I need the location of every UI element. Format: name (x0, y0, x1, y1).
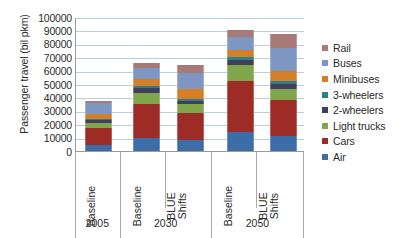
category-cell-blue-shifts: BLUEShifts (257, 152, 304, 208)
bar-segment-air[interactable] (85, 145, 112, 151)
legend-swatch-icon (322, 92, 328, 98)
plot-area (75, 18, 304, 152)
category-cell-blue-shifts: BLUEShifts (166, 152, 212, 208)
bar-segment-minibuses[interactable] (227, 50, 254, 57)
bar-segment-minibuses[interactable] (270, 71, 297, 82)
legend-item-cars[interactable]: Cars (322, 134, 411, 150)
bar-segment-light-trucks[interactable] (270, 89, 297, 100)
legend-item-minibuses[interactable]: Minibuses (322, 71, 411, 87)
legend-swatch-icon (322, 45, 328, 51)
legend-item-2-wheelers[interactable]: 2-wheelers (322, 102, 411, 118)
category-cell-baseline: Baseline (121, 152, 167, 208)
y-tick-label: 0 (18, 147, 72, 158)
y-tick-label: 60000 (18, 66, 72, 77)
bar-segment-buses[interactable] (85, 103, 112, 114)
legend-item-3-wheelers[interactable]: 3-wheelers (322, 87, 411, 103)
legend-item-light-trucks[interactable]: Light trucks (322, 118, 411, 134)
group-cell-2050: 2050 (212, 208, 304, 238)
bar-segment-buses[interactable] (270, 48, 297, 71)
legend-swatch-icon (322, 154, 328, 160)
y-tick-label: 20000 (18, 120, 72, 131)
bar-segment-cars[interactable] (133, 104, 160, 138)
y-tick-label: 30000 (18, 106, 72, 117)
group-cell-2005: 2005 (75, 208, 121, 238)
legend-label: Buses (333, 57, 362, 69)
bar-segment-minibuses[interactable] (133, 79, 160, 86)
legend-label: Light trucks (333, 120, 386, 132)
legend-item-rail[interactable]: Rail (322, 40, 411, 56)
legend-swatch-icon (322, 138, 328, 144)
bar-segment-light-trucks[interactable] (133, 93, 160, 104)
bar-2050-blue-shifts[interactable] (270, 34, 297, 151)
bar-segment-rail[interactable] (177, 65, 204, 72)
legend-label: 3-wheelers (333, 89, 383, 101)
gridline (76, 18, 304, 19)
legend-swatch-icon (322, 60, 328, 66)
group-label: 2005 (86, 217, 109, 229)
category-cell-baseline: Baseline (75, 152, 121, 208)
bar-segment-buses[interactable] (133, 68, 160, 79)
legend-label: Rail (333, 42, 351, 54)
y-axis-tick-labels: 1000009000080000700006000050000400003000… (18, 14, 72, 152)
bar-segment-buses[interactable] (177, 73, 204, 89)
legend-item-buses[interactable]: Buses (322, 56, 411, 72)
bar-segment-cars[interactable] (227, 81, 254, 131)
legend-item-air[interactable]: Air (322, 149, 411, 165)
bar-segment-air[interactable] (270, 136, 297, 151)
category-cell-baseline: Baseline (212, 152, 258, 208)
legend-swatch-icon (322, 123, 328, 129)
group-label: 2050 (246, 217, 269, 229)
group-cell-2030: 2030 (121, 208, 212, 238)
legend-swatch-icon (322, 76, 328, 82)
bar-segment-minibuses[interactable] (177, 89, 204, 99)
gridline (76, 31, 304, 32)
category-axis: BaselineBaselineBLUEShiftsBaselineBLUESh… (75, 152, 304, 238)
bar-segment-light-trucks[interactable] (177, 104, 204, 113)
bar-segment-buses[interactable] (227, 37, 254, 50)
stacked-bar-chart: Passenger travel (bil pkm) 1000009000080… (0, 0, 411, 238)
y-tick-label: 10000 (18, 133, 72, 144)
bar-segment-cars[interactable] (85, 128, 112, 145)
y-tick-label: 90000 (18, 26, 72, 37)
group-label: 2030 (154, 217, 177, 229)
y-tick-label: 50000 (18, 80, 72, 91)
bar-segment-light-trucks[interactable] (227, 65, 254, 81)
y-tick-label: 100000 (18, 13, 72, 24)
bar-segment-air[interactable] (133, 138, 160, 151)
legend-label: Cars (333, 135, 355, 147)
bar-2005-baseline[interactable] (85, 101, 112, 151)
legend-label: Minibuses (333, 73, 379, 85)
bar-segment-air[interactable] (177, 140, 204, 151)
legend-swatch-icon (322, 107, 328, 113)
bar-segment-rail[interactable] (270, 34, 297, 47)
bar-segment-rail[interactable] (227, 30, 254, 37)
legend-label: Air (333, 151, 346, 163)
legend: RailBusesMinibuses3-wheelers2-wheelersLi… (322, 40, 411, 165)
bar-2030-blue-shifts[interactable] (177, 65, 204, 151)
bar-segment-cars[interactable] (270, 100, 297, 136)
legend-label: 2-wheelers (333, 104, 383, 116)
bar-segment-air[interactable] (227, 132, 254, 151)
bar-segment-cars[interactable] (177, 113, 204, 140)
bar-2030-baseline[interactable] (133, 63, 160, 151)
bar-2050-baseline[interactable] (227, 30, 254, 151)
y-tick-label: 80000 (18, 39, 72, 50)
y-tick-label: 70000 (18, 53, 72, 64)
y-tick-label: 40000 (18, 93, 72, 104)
